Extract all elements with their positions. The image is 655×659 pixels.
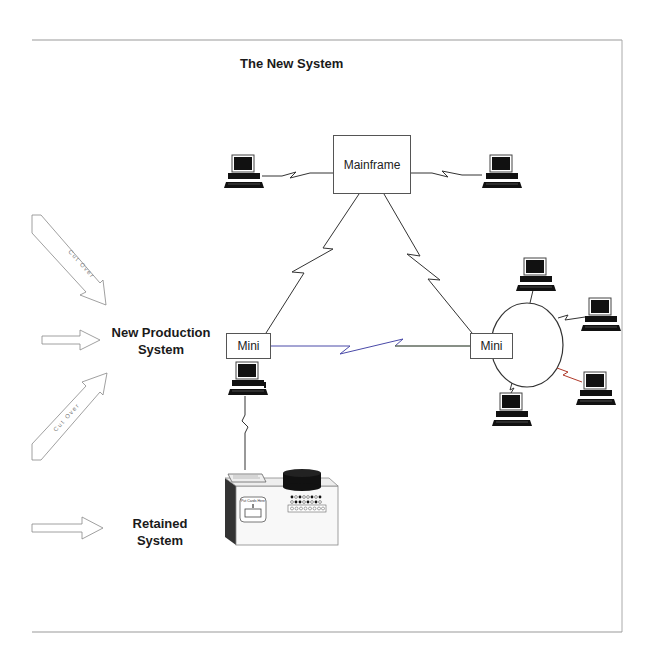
pc-icon-ring-lower-right — [576, 372, 616, 405]
link-mainframe-mini-right — [384, 194, 472, 333]
pc-icon-mainframe-left — [224, 155, 264, 188]
diagram-canvas: Put Cards Here — [0, 0, 655, 659]
card-slot-label: Put Cards Here — [241, 499, 265, 503]
pc-icon-mini-left — [228, 362, 268, 395]
mini-left-label: Mini — [237, 339, 259, 353]
arrow-retained — [32, 517, 103, 539]
mini-right-label: Mini — [480, 339, 502, 353]
pc-icon-ring-lower-left — [492, 393, 532, 426]
link-pc-legacy — [242, 396, 248, 470]
new-production-system-label: New Production System — [105, 324, 217, 358]
mainframe-link-right — [410, 171, 482, 177]
cutover-arrow-top — [32, 215, 106, 305]
pc-icon-mainframe-right — [482, 155, 522, 188]
pc-icon-ring-top — [516, 258, 556, 291]
mainframe-link-left — [262, 172, 333, 178]
legacy-machine-icon: Put Cards Here — [225, 469, 338, 545]
arrow-new-production — [42, 330, 100, 350]
mini-right-node: Mini — [470, 333, 513, 359]
diagram-graphics: Put Cards Here — [0, 0, 655, 659]
cutover-label-top: Cut Over — [67, 249, 96, 280]
mainframe-label: Mainframe — [344, 158, 401, 172]
pc-icon-ring-right — [581, 298, 621, 331]
retained-line2: System — [115, 532, 205, 549]
new-production-line1: New Production — [105, 324, 217, 341]
mini-left-node: Mini — [226, 333, 271, 359]
mainframe-node: Mainframe — [333, 135, 411, 194]
retained-line1: Retained — [115, 515, 205, 532]
link-mainframe-mini-left — [266, 194, 359, 333]
new-production-line2: System — [105, 341, 217, 358]
diagram-title: The New System — [240, 56, 343, 71]
retained-system-label: Retained System — [115, 515, 205, 549]
